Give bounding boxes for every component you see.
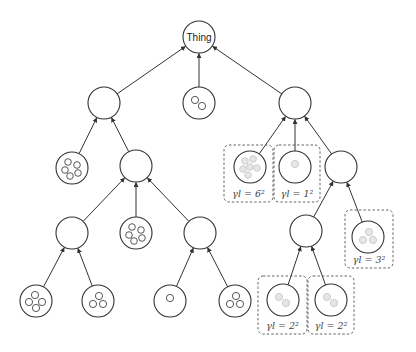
- instance-dot: [323, 293, 330, 300]
- class-node-L1a: [88, 87, 120, 119]
- node-circle: [267, 284, 299, 316]
- class-node-L4b: [82, 285, 114, 317]
- edge-L2b-to-L1a: [111, 118, 128, 152]
- class-node-L4c: [154, 285, 186, 317]
- node-circle: [183, 87, 215, 119]
- gamma-label: γl = 3²: [353, 254, 386, 265]
- instance-dot: [291, 160, 298, 167]
- node-circle: [352, 221, 384, 253]
- instance-dot: [330, 299, 337, 306]
- gamma-label: γl = 2²: [315, 320, 348, 331]
- node-circle: [120, 217, 152, 249]
- tree-svg: γl = 6²γl = 1²γl = 3²γl = 2²γl = 2² Thin…: [0, 0, 416, 352]
- gamma-label: γl = 6²: [232, 188, 265, 199]
- node-circle: [184, 217, 216, 249]
- class-node-L1c: [279, 87, 311, 119]
- class-node-L3c: [184, 217, 216, 249]
- node-circle: [154, 285, 186, 317]
- edge-L3e-to-L2e: [347, 182, 362, 222]
- instance-dot: [275, 293, 282, 300]
- class-node-L2a: [56, 152, 88, 184]
- class-node-L2b: [120, 150, 152, 182]
- class-node-L3e: [352, 221, 384, 253]
- edge-L4c-to-L3c: [176, 248, 193, 286]
- class-node-L4d: [219, 285, 251, 317]
- gamma-label: γl = 1²: [281, 188, 314, 199]
- edge-L2a-to-L1a: [79, 118, 97, 154]
- class-node-L4f: [315, 284, 347, 316]
- instance-dot: [254, 165, 261, 172]
- node-circle: [219, 285, 251, 317]
- instance-dot: [240, 166, 247, 173]
- root-node-thing: Thing: [183, 21, 215, 53]
- edge-L4b-to-L3a: [78, 248, 92, 286]
- node-circle: [325, 151, 357, 183]
- edge-L2c-to-L1c: [259, 116, 285, 153]
- class-node-L2e: [325, 151, 357, 183]
- node-circle: [315, 284, 347, 316]
- node-circle: [120, 150, 152, 182]
- node-circle: [88, 87, 120, 119]
- class-node-L2c: [234, 151, 266, 183]
- taxonomy-tree-diagram: γl = 6²γl = 1²γl = 3²γl = 2²γl = 2² Thin…: [0, 0, 416, 352]
- instance-dot: [282, 299, 289, 306]
- edge-L3c-to-L2b: [147, 178, 189, 221]
- node-circle: [290, 215, 322, 247]
- instance-dot: [359, 236, 366, 243]
- node-circle: [20, 285, 52, 317]
- edge-L4f-to-L3d: [312, 247, 326, 285]
- edges-layer: [43, 46, 362, 287]
- node-circle: [56, 152, 88, 184]
- class-node-L4a: [20, 285, 52, 317]
- instance-dot: [247, 164, 254, 171]
- edge-L2e-to-L1c: [305, 116, 332, 154]
- instance-dot: [245, 172, 252, 179]
- class-node-L1b: [183, 87, 215, 119]
- gamma-label: γl = 2²: [266, 320, 299, 331]
- node-circle: [56, 217, 88, 249]
- edge-L1c-to-root: [213, 46, 282, 94]
- edge-L1a-to-root: [117, 46, 185, 93]
- instance-dot: [365, 228, 372, 235]
- edge-L3a-to-L2b: [83, 178, 125, 221]
- class-node-L3a: [56, 217, 88, 249]
- node-circle: [82, 285, 114, 317]
- edge-L4a-to-L3a: [43, 248, 64, 287]
- instance-dot: [250, 156, 257, 163]
- class-node-L3b: [120, 217, 152, 249]
- edge-L4e-to-L3d: [288, 247, 301, 285]
- edge-L3d-to-L2e: [314, 181, 333, 216]
- instance-dot: [242, 158, 249, 165]
- class-node-L3d: [290, 215, 322, 247]
- class-node-L2d: [279, 151, 311, 183]
- edge-L4d-to-L3c: [208, 248, 228, 287]
- node-circle: [279, 87, 311, 119]
- root-label: Thing: [186, 32, 211, 43]
- nodes-layer: Thing: [20, 21, 384, 317]
- instance-dot: [369, 236, 376, 243]
- class-node-L4e: [267, 284, 299, 316]
